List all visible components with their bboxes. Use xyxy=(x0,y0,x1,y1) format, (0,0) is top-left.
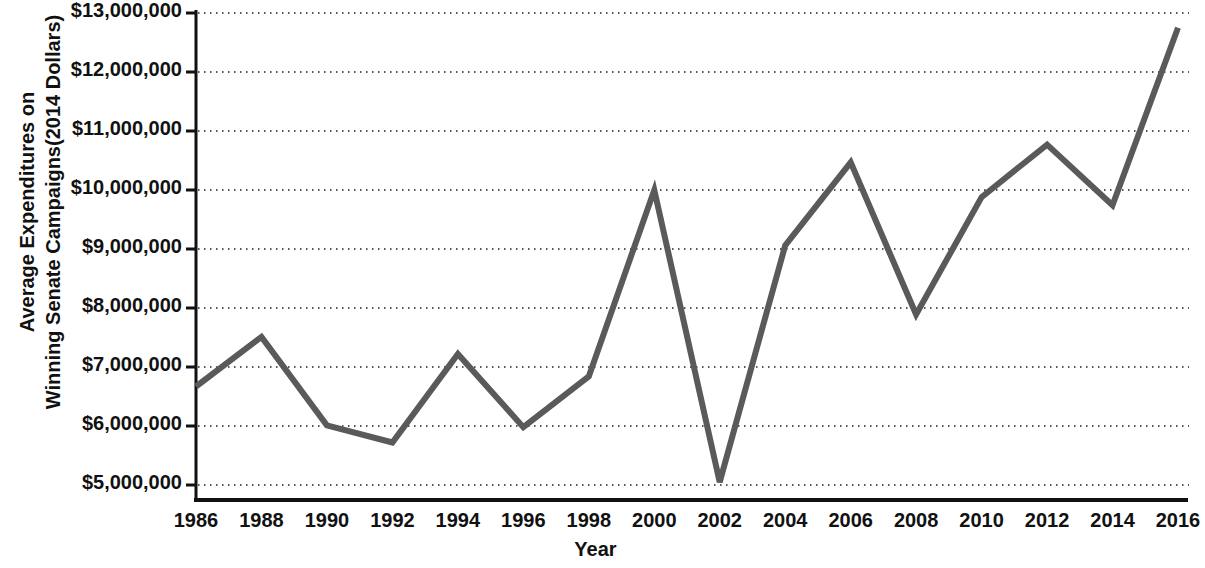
gridlines-group xyxy=(198,13,1189,485)
x-axis-title: Year xyxy=(0,538,1191,561)
x-axis-tick-label: 1992 xyxy=(357,509,427,532)
x-axis-tick-label: 1990 xyxy=(292,509,362,532)
x-axis-tick-label: 2006 xyxy=(816,509,886,532)
x-axis-tick-label: 1986 xyxy=(161,509,231,532)
x-axis-tick-label: 2000 xyxy=(619,509,689,532)
x-axis-tick-label: 1988 xyxy=(226,509,296,532)
data-series-line xyxy=(196,28,1178,482)
x-axis-tick-label: 2010 xyxy=(947,509,1017,532)
x-axis-tick-label: 2012 xyxy=(1012,509,1082,532)
x-axis-tick-label: 1996 xyxy=(488,509,558,532)
x-axis-tick-label: 1994 xyxy=(423,509,493,532)
x-axis-tick-label: 2014 xyxy=(1078,509,1148,532)
x-axis-tick-label: 2016 xyxy=(1143,509,1205,532)
x-axis-tick-label: 2004 xyxy=(750,509,820,532)
x-axis-tick-label: 2002 xyxy=(685,509,755,532)
x-axis-tick-label: 2008 xyxy=(881,509,951,532)
x-axis-tick-label: 1998 xyxy=(554,509,624,532)
